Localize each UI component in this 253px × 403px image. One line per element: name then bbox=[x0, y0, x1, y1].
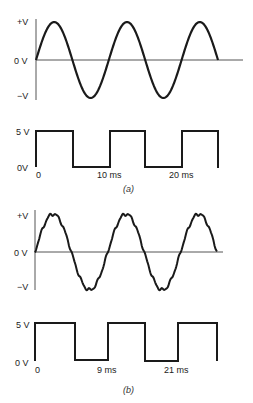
tick-0: 0 bbox=[36, 170, 41, 180]
label-plus-v: +V bbox=[17, 211, 28, 221]
label-zero-v: 0 V bbox=[14, 56, 28, 66]
label-zero-v: 0 V bbox=[14, 248, 28, 258]
sine-wave-a: +V 0 V −V bbox=[14, 17, 243, 101]
label-5v: 5 V bbox=[16, 320, 30, 330]
square-trace bbox=[35, 323, 217, 361]
label-5v: 5 V bbox=[16, 127, 30, 137]
waveform-figure: +V 0 V −V 5 V 0V 0 10 ms 20 ms (a) +V 0 … bbox=[0, 0, 253, 403]
square-wave-b: 5 V 0 V 0 9 ms 21 ms bbox=[15, 320, 217, 375]
tick-0: 0 bbox=[35, 365, 40, 375]
label-minus-v: −V bbox=[17, 282, 28, 292]
label-plus-v: +V bbox=[17, 17, 28, 27]
caption-a: (a) bbox=[123, 184, 134, 194]
square-wave-a: 5 V 0V 0 10 ms 20 ms bbox=[16, 127, 218, 180]
square-trace bbox=[36, 131, 218, 168]
tick-10ms: 10 ms bbox=[97, 170, 122, 180]
tick-20ms: 20 ms bbox=[169, 170, 194, 180]
label-0v: 0V bbox=[17, 163, 28, 173]
tick-9ms: 9 ms bbox=[97, 365, 117, 375]
label-minus-v: −V bbox=[17, 91, 28, 101]
label-0v: 0 V bbox=[15, 358, 29, 368]
tick-21ms: 21 ms bbox=[164, 365, 189, 375]
caption-b: (b) bbox=[123, 385, 134, 395]
sine-wave-b: +V 0 V −V bbox=[14, 210, 223, 292]
